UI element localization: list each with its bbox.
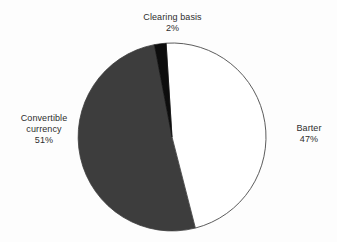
pie-label-barter-name: Barter	[284, 123, 334, 134]
pie-label-barter: Barter 47%	[284, 123, 334, 145]
pie-label-barter-value: 47%	[284, 134, 334, 145]
pie-label-convertible-currency-name-line2: currency	[6, 124, 82, 135]
pie-label-convertible-currency-name-line1: Convertible	[6, 113, 82, 124]
pie-label-clearing-basis: Clearing basis 2%	[0, 12, 337, 34]
pie-label-clearing-basis-value: 2%	[4, 23, 337, 34]
pie-chart-figure: Clearing basis 2% Convertible currency 5…	[0, 0, 337, 242]
pie-label-convertible-currency-value: 51%	[6, 135, 82, 146]
pie-label-clearing-basis-name: Clearing basis	[4, 12, 337, 23]
pie-label-convertible-currency: Convertible currency 51%	[6, 113, 82, 146]
